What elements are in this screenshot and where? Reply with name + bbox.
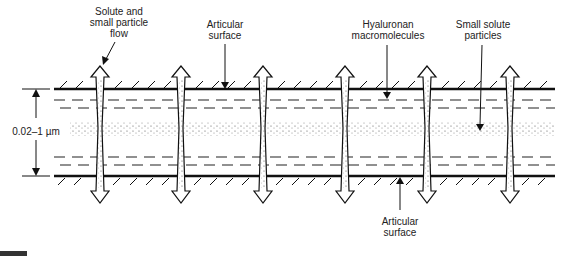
leader-arrowhead-bottom-surface bbox=[396, 177, 404, 184]
leader-arrowhead-flow bbox=[102, 56, 109, 65]
bottom-surface-label: Articular surface bbox=[375, 216, 425, 238]
top-surface-label-line2: surface bbox=[200, 30, 250, 41]
hyaluronan-label: Hyaluronan macromolecules bbox=[348, 19, 428, 41]
particles-label-line1: Small solute bbox=[447, 19, 519, 30]
bottom-articular-surface bbox=[54, 176, 555, 185]
top-surface-label-line1: Articular bbox=[200, 19, 250, 30]
thickness-label: 0.02–1 µm bbox=[8, 126, 64, 137]
flow-label-line1: Solute and bbox=[84, 6, 154, 17]
particles-label-line2: particles bbox=[447, 30, 519, 41]
hyaluronan-label-line1: Hyaluronan bbox=[348, 19, 428, 30]
top-surface-label: Articular surface bbox=[200, 19, 250, 41]
flow-label: Solute and small particle flow bbox=[84, 6, 154, 39]
particles-label: Small solute particles bbox=[447, 19, 519, 41]
flow-label-line3: flow bbox=[84, 28, 154, 39]
bottom-surface-label-line2: surface bbox=[375, 227, 425, 238]
bottom-surface-label-line1: Articular bbox=[375, 216, 425, 227]
hyaluronan-label-line2: macromolecules bbox=[348, 30, 428, 41]
flow-label-line2: small particle bbox=[84, 17, 154, 28]
leader-arrowhead-hyaluronan bbox=[383, 92, 391, 99]
top-articular-surface bbox=[54, 81, 555, 89]
figure-corner-mark bbox=[0, 251, 27, 256]
